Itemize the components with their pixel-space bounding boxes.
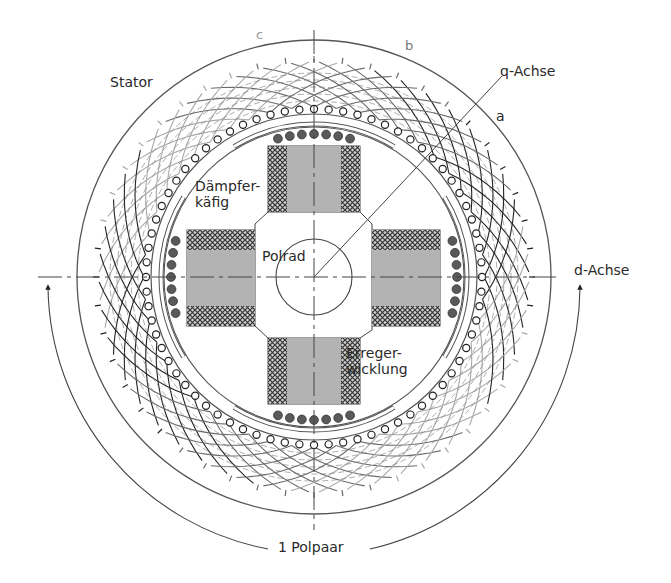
label-field-winding: Erreger- wicklung [346,345,408,377]
label-damper-cage: Dämpfer- käfig [195,178,260,210]
label-phase-b: b [405,38,413,54]
field-winding [341,146,360,212]
label-q-axis: q-Achse [500,63,555,79]
field-winding [372,230,440,250]
pole-core-right [372,250,440,306]
field-winding [372,306,440,326]
pole-core-left [187,250,255,306]
synchronous-machine-diagram [0,0,671,583]
label-pole-pair: 1 Polpaar [278,539,344,555]
field-winding [187,306,255,326]
label-phase-a: a [496,108,505,124]
field-winding [268,146,287,212]
label-phase-c: c [256,27,263,43]
label-d-axis: d-Achse [574,262,629,278]
label-stator: Stator [110,74,153,90]
label-rotor: Polrad [262,248,306,264]
field-winding [187,230,255,250]
field-winding [268,338,287,404]
